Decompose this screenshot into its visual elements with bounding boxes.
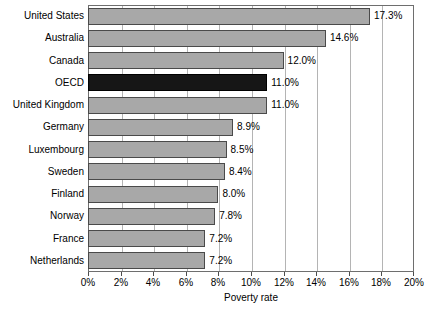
bar-value-label: 11.0% — [267, 100, 299, 110]
bar-row: 7.2% — [88, 230, 414, 247]
category-label: Norway — [0, 211, 84, 221]
x-axis-tick-label: 16% — [339, 278, 359, 288]
bar-value-label: 12.0% — [284, 56, 316, 66]
poverty-rate-bar-chart: 17.3%14.6%12.0%11.0%11.0%8.9%8.5%8.4%8.0… — [0, 0, 431, 312]
x-axis-tick-label: 6% — [179, 278, 193, 288]
bar-row: 8.9% — [88, 119, 414, 136]
category-label: Netherlands — [0, 256, 84, 266]
x-axis-tick-label: 18% — [371, 278, 391, 288]
bar-value-label: 8.5% — [227, 145, 254, 155]
category-label: France — [0, 234, 84, 244]
category-label: Luxembourg — [0, 145, 84, 155]
category-label: OECD — [0, 78, 84, 88]
x-axis-ticks: 0%2%4%6%8%10%12%14%16%18%20% — [88, 272, 414, 288]
bar-row: 8.4% — [88, 163, 414, 180]
bar-row: 7.8% — [88, 208, 414, 225]
category-axis-labels: United StatesAustraliaCanadaOECDUnited K… — [0, 5, 84, 272]
x-axis-tick-label: 0% — [81, 278, 95, 288]
bar-value-label: 8.0% — [218, 189, 245, 199]
bar — [88, 230, 205, 247]
bar-rows: 17.3%14.6%12.0%11.0%11.0%8.9%8.5%8.4%8.0… — [88, 5, 414, 272]
bar — [88, 119, 233, 136]
category-label: United States — [0, 11, 84, 21]
x-axis-tick-mark — [251, 272, 252, 276]
x-axis-tick-label: 8% — [211, 278, 225, 288]
x-axis-tick-mark — [218, 272, 219, 276]
x-axis-tick-label: 12% — [274, 278, 294, 288]
x-axis-tick-mark — [186, 272, 187, 276]
bar-row: 8.0% — [88, 186, 414, 203]
category-label: Germany — [0, 122, 84, 132]
x-axis-tick-mark — [284, 272, 285, 276]
bar-row: 17.3% — [88, 8, 414, 25]
bar-value-label: 7.8% — [215, 211, 242, 221]
bar-row: 14.6% — [88, 30, 414, 47]
bar-row: 11.0% — [88, 74, 414, 91]
bar — [88, 52, 284, 69]
bar-value-label: 8.9% — [233, 122, 260, 132]
x-axis-tick-label: 10% — [241, 278, 261, 288]
bar-row: 8.5% — [88, 141, 414, 158]
bar-row: 7.2% — [88, 252, 414, 269]
category-label: Australia — [0, 33, 84, 43]
bar-value-label: 7.2% — [205, 234, 232, 244]
bar — [88, 8, 370, 25]
category-label: Sweden — [0, 167, 84, 177]
x-axis-title: Poverty rate — [88, 292, 414, 303]
bar-row: 11.0% — [88, 97, 414, 114]
x-axis-tick-label: 2% — [114, 278, 128, 288]
x-axis-tick-mark — [121, 272, 122, 276]
bar-value-label: 17.3% — [370, 11, 402, 21]
x-axis-tick-label: 14% — [306, 278, 326, 288]
x-axis-tick-mark — [381, 272, 382, 276]
bar — [88, 141, 227, 158]
bar — [88, 252, 205, 269]
bar-value-label: 7.2% — [205, 256, 232, 266]
x-axis-tick-label: 20% — [404, 278, 424, 288]
bar-value-label: 14.6% — [326, 33, 358, 43]
x-axis-tick-mark — [349, 272, 350, 276]
x-axis-tick-label: 4% — [146, 278, 160, 288]
category-label: Finland — [0, 189, 84, 199]
bar — [88, 186, 218, 203]
bar — [88, 30, 326, 47]
x-axis-tick-mark — [153, 272, 154, 276]
bar — [88, 163, 225, 180]
bar-row: 12.0% — [88, 52, 414, 69]
bar — [88, 208, 215, 225]
bar-value-label: 8.4% — [225, 167, 252, 177]
category-label: Canada — [0, 56, 84, 66]
x-axis-tick-mark — [413, 272, 414, 276]
bar — [88, 97, 267, 114]
bar-value-label: 11.0% — [267, 78, 299, 88]
bar — [88, 74, 267, 91]
x-axis-tick-mark — [88, 272, 89, 276]
category-label: United Kingdom — [0, 100, 84, 110]
x-axis-tick-mark — [316, 272, 317, 276]
